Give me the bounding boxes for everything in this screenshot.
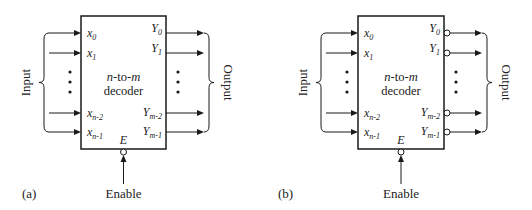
input-ellipsis-dot [345, 80, 348, 83]
input-pin-label-3-subscript: n-1 [369, 132, 380, 141]
input-arrow-1-arrowhead-icon [74, 50, 81, 56]
input-brace [316, 33, 326, 132]
panel-b-decoder: Inputx0x1xn-2xn-1OutputY0Y1Ym-2Ym-1n-to-… [278, 16, 514, 201]
decoder-title-part: -to- [113, 70, 131, 84]
output-ellipsis-dot [454, 70, 457, 73]
decoder-figure: Inputx0x1xn-2xn-1OutputY0Y1Ym-2Ym-1n-to-… [0, 0, 532, 210]
input-ellipsis-dot [68, 80, 71, 83]
output-brace [482, 33, 492, 132]
output-pin-label-3-subscript: m-1 [150, 131, 162, 140]
output-ellipsis-dot [176, 80, 179, 83]
panel-caption: (b) [278, 186, 293, 201]
output-arrow-2-arrowhead-icon [475, 110, 482, 116]
output-pin-label-0-subscript: 0 [436, 28, 440, 37]
enable-pin-label: E [119, 133, 128, 147]
output-arrow-3-arrowhead-icon [197, 129, 204, 135]
output-pin-label-2-subscript: m-2 [150, 112, 162, 121]
input-ellipsis-dot [345, 90, 348, 93]
input-arrow-2-arrowhead-icon [351, 110, 358, 116]
output-arrow-0-arrowhead-icon [475, 30, 482, 36]
enable-arrowhead-icon [398, 155, 404, 162]
input-pin-label-1-subscript: 1 [369, 53, 373, 62]
output-ellipsis-dot [176, 90, 179, 93]
output-ellipsis-dot [454, 90, 457, 93]
decoder-title-line1: n-to-m [107, 70, 140, 84]
output-arrow-0-arrowhead-icon [197, 30, 204, 36]
output-pin-label-3-subscript: m-1 [428, 131, 440, 140]
panel-caption: (a) [22, 186, 36, 201]
input-arrow-1-arrowhead-icon [351, 50, 358, 56]
decoder-title-line2: decoder [104, 84, 144, 98]
output-ellipsis-dot [454, 80, 457, 83]
enable-inversion-bubble [121, 149, 127, 155]
output-arrow-3-arrowhead-icon [475, 129, 482, 135]
decoder-title-part: m [131, 70, 140, 84]
input-ellipsis-dot [68, 70, 71, 73]
output-inversion-bubble-0 [444, 30, 450, 36]
input-arrow-3-arrowhead-icon [74, 129, 81, 135]
decoder-title-line1: n-to-m [384, 70, 417, 84]
output-label: Output [499, 64, 514, 101]
output-ellipsis-dot [176, 70, 179, 73]
input-ellipsis-dot [68, 90, 71, 93]
enable-label: Enable [383, 186, 419, 201]
output-arrow-1-arrowhead-icon [475, 50, 482, 56]
output-pin-label-0-subscript: 0 [158, 28, 162, 37]
output-inversion-bubble-3 [444, 129, 450, 135]
input-arrow-2-arrowhead-icon [74, 110, 81, 116]
input-pin-label-2-subscript: n-2 [92, 113, 103, 122]
output-brace [204, 33, 214, 132]
input-pin-label-0-subscript: 0 [92, 33, 96, 42]
input-brace [39, 33, 49, 132]
output-pin-label-1-subscript: 1 [158, 48, 162, 57]
input-arrow-3-arrowhead-icon [351, 129, 358, 135]
decoder-title-line2: decoder [381, 84, 421, 98]
decoder-title-part: m [409, 70, 418, 84]
enable-pin-label: E [396, 133, 405, 147]
panel-a-decoder: Inputx0x1xn-2xn-1OutputY0Y1Ym-2Ym-1n-to-… [18, 16, 236, 201]
input-label: Input [18, 68, 33, 96]
enable-arrowhead-icon [121, 155, 127, 162]
input-ellipsis-dot [345, 70, 348, 73]
output-inversion-bubble-1 [444, 50, 450, 56]
decoder-title-part: -to- [391, 70, 409, 84]
input-pin-label-3-subscript: n-1 [92, 132, 103, 141]
input-pin-label-1-subscript: 1 [92, 53, 96, 62]
output-arrow-1-arrowhead-icon [197, 50, 204, 56]
enable-label: Enable [105, 186, 141, 201]
output-pin-label-2-subscript: m-2 [428, 112, 440, 121]
input-label: Input [295, 68, 310, 96]
enable-inversion-bubble [398, 149, 404, 155]
output-inversion-bubble-2 [444, 110, 450, 116]
output-label: Output [221, 64, 236, 101]
input-arrow-0-arrowhead-icon [351, 30, 358, 36]
input-pin-label-0-subscript: 0 [369, 33, 373, 42]
input-arrow-0-arrowhead-icon [74, 30, 81, 36]
output-arrow-2-arrowhead-icon [197, 110, 204, 116]
input-pin-label-2-subscript: n-2 [369, 113, 380, 122]
output-pin-label-1-subscript: 1 [436, 48, 440, 57]
